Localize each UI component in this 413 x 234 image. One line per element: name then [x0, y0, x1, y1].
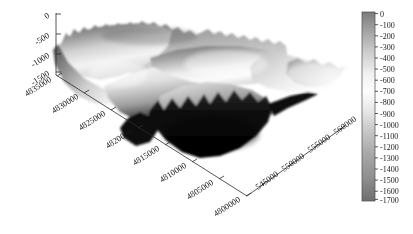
- x-axis-tick-labels: 545000 550000 555000 560000: [253, 114, 358, 192]
- colorbar-ticks: [375, 14, 378, 200]
- y-tick-label: 4830000: [50, 91, 81, 115]
- colorbar-tick-label: -1000: [380, 121, 399, 130]
- y-axis-tick: [111, 107, 116, 110]
- highlight-right: [286, 63, 338, 85]
- y-tick-label: 4825000: [77, 108, 108, 132]
- colorbar-tick-label: -1400: [380, 165, 399, 174]
- shadow-back: [102, 27, 198, 45]
- colorbar-tick-label: -1200: [380, 143, 399, 152]
- colorbar-tick-label: -900: [380, 110, 395, 119]
- colorbar-tick-label: -1300: [380, 154, 399, 163]
- y-axis-tick: [192, 159, 197, 162]
- y-axis-tick: [165, 142, 170, 145]
- colorbar-tick-label: -400: [380, 54, 395, 63]
- highlight-center: [184, 50, 268, 78]
- colorbar-tick-label: -1100: [380, 132, 398, 141]
- colorbar-tick-label: 0: [380, 10, 384, 19]
- z-tick-label: -1000: [29, 50, 51, 69]
- colorbar-tick-labels: 0 -100 -200 -300 -400 -500 -600 -700 -80…: [380, 10, 399, 205]
- x-tick-label: 545000: [253, 169, 280, 192]
- colorbar-gradient: [362, 12, 375, 201]
- colorbar-tick-label: -100: [380, 21, 395, 30]
- z-tick-label: -500: [33, 30, 52, 47]
- z-tick-label: 0: [42, 10, 51, 21]
- highlight-left: [88, 61, 148, 87]
- y-tick-label: 4810000: [158, 160, 189, 184]
- colorbar-tick-label: -300: [380, 43, 395, 52]
- colorbar-tick-label: -1700: [380, 196, 399, 205]
- surface-plot-figure: 0 -500 -1000 -1500 4835000 4830000 48250…: [0, 0, 413, 234]
- y-axis-tick: [219, 176, 224, 179]
- surface-right-lip: [268, 92, 318, 116]
- plot-canvas: 0 -500 -1000 -1500 4835000 4830000 48250…: [0, 0, 413, 234]
- x-tick-label: 560000: [331, 114, 358, 137]
- x-tick-label: 555000: [305, 132, 332, 155]
- shadow-deep: [164, 116, 260, 152]
- colorbar-tick-label: -200: [380, 32, 395, 41]
- colorbar-tick-label: -700: [380, 87, 395, 96]
- colorbar-tick-label: -800: [380, 98, 395, 107]
- y-tick-label: 4815000: [131, 143, 162, 167]
- y-tick-label: 4800000: [212, 194, 243, 218]
- colorbar-tick-label: -1500: [380, 176, 399, 185]
- y-tick-label: 4805000: [185, 177, 216, 201]
- colorbar-tick-label: -600: [380, 76, 395, 85]
- colorbar: 0 -100 -200 -300 -400 -500 -600 -700 -80…: [362, 10, 399, 205]
- colorbar-tick-label: -500: [380, 65, 395, 74]
- x-tick-label: 550000: [279, 151, 306, 174]
